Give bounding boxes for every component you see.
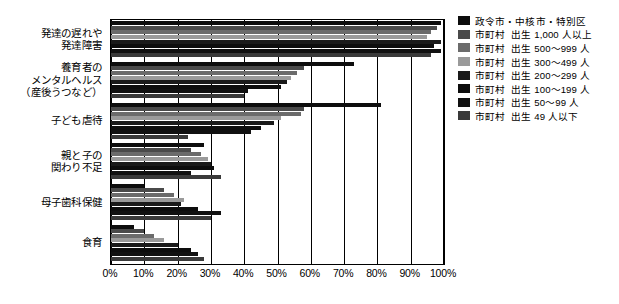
legend-label: 市町村出生 50〜99 人 (475, 95, 579, 109)
legend-label-secondary: 出生 49 人以下 (511, 109, 578, 123)
bar (111, 234, 154, 238)
bar (111, 89, 248, 93)
bar (111, 184, 144, 188)
legend-label-primary: 市町村 (475, 82, 505, 96)
bar (111, 107, 304, 111)
bar (111, 94, 244, 98)
legend-label: 市町村出生 500〜999 人 (475, 41, 590, 55)
bar-group (111, 183, 444, 224)
legend-item: 市町村出生 49 人以下 (458, 109, 616, 123)
legend-item: 市町村出生 500〜999 人 (458, 41, 616, 55)
bar (111, 80, 287, 84)
bar (111, 225, 134, 229)
legend-item: 市町村出生 300〜499 人 (458, 55, 616, 69)
category-label: 子ども虐待 (0, 114, 102, 127)
legend-swatch (458, 16, 470, 25)
bar (111, 252, 198, 256)
legend-label-secondary: 出生 50〜99 人 (511, 95, 579, 109)
bar (111, 193, 174, 197)
bar-group (111, 101, 444, 142)
bar (111, 211, 221, 215)
bar (111, 171, 191, 175)
legend-item: 市町村出生 1,000 人以上 (458, 28, 616, 42)
bar (111, 116, 281, 120)
x-tick-label: 100% (423, 267, 463, 279)
legend-label-secondary: 出生 300〜499 人 (511, 55, 590, 69)
category-label: 親と子の 関わり不足 (0, 149, 102, 174)
legend-label-secondary: 出生 1,000 人以上 (511, 27, 592, 41)
legend-label-primary: 市町村 (475, 27, 505, 41)
bar (111, 188, 164, 192)
bar (111, 202, 181, 206)
bar (111, 103, 381, 107)
bar (111, 257, 204, 261)
bar (111, 216, 211, 220)
legend-label-primary: 市町村 (475, 109, 505, 123)
category-axis-labels: 発達の遅れや 発達障害養育者の メンタルヘルス （産後うつなど）子ども虐待親と子… (0, 19, 106, 265)
bar (111, 53, 431, 57)
legend-swatch (458, 30, 470, 39)
legend-label-primary: 市町村 (475, 41, 505, 55)
bar-groups (111, 20, 444, 264)
plot-area (110, 19, 445, 265)
bar (111, 238, 164, 242)
legend-item: 政令市・中核市・特別区 (458, 14, 616, 28)
bar-chart: 発達の遅れや 発達障害養育者の メンタルヘルス （産後うつなど）子ども虐待親と子… (0, 0, 619, 304)
legend-label-secondary: 出生 200〜299 人 (511, 68, 590, 82)
bar (111, 152, 201, 156)
bar (111, 71, 297, 75)
bar-group (111, 61, 444, 102)
bar (111, 85, 281, 89)
bar (111, 143, 204, 147)
bar (111, 207, 198, 211)
bar (111, 62, 354, 66)
legend-label: 政令市・中核市・特別区 (475, 14, 586, 28)
legend-swatch (458, 98, 470, 107)
bar (111, 40, 441, 44)
legend-swatch (458, 84, 470, 93)
bar (111, 76, 291, 80)
bar (111, 26, 437, 30)
bar (111, 135, 188, 139)
legend-label: 市町村出生 1,000 人以上 (475, 27, 592, 41)
bar (111, 243, 178, 247)
bar (111, 130, 251, 134)
bar (111, 198, 184, 202)
legend-label-secondary: 出生 500〜999 人 (511, 41, 590, 55)
bar (111, 66, 304, 70)
bar (111, 229, 144, 233)
legend-label-primary: 政令市・中核市・特別区 (475, 14, 586, 28)
legend-label-primary: 市町村 (475, 68, 505, 82)
legend-label: 市町村出生 49 人以下 (475, 109, 578, 123)
bar (111, 30, 431, 34)
bar (111, 162, 211, 166)
bar (111, 44, 434, 48)
legend-label: 市町村出生 300〜499 人 (475, 55, 590, 69)
chart-legend: 政令市・中核市・特別区市町村出生 1,000 人以上市町村出生 500〜999 … (458, 14, 616, 123)
bar (111, 175, 221, 179)
legend-label-primary: 市町村 (475, 95, 505, 109)
category-label: 母子歯科保健 (0, 196, 102, 209)
legend-item: 市町村出生 100〜199 人 (458, 82, 616, 96)
bar (111, 112, 301, 116)
legend-item: 市町村出生 50〜99 人 (458, 96, 616, 110)
category-label: 発達の遅れや 発達障害 (0, 27, 102, 52)
x-axis-tick-labels: 0%10%20%30%40%50%60%70%80%90%100% (0, 267, 619, 283)
legend-swatch (458, 111, 470, 120)
bar (111, 121, 274, 125)
bar (111, 166, 214, 170)
legend-label-primary: 市町村 (475, 55, 505, 69)
legend-swatch (458, 43, 470, 52)
legend-label-secondary: 出生 100〜199 人 (511, 82, 590, 96)
legend-label: 市町村出生 100〜199 人 (475, 82, 590, 96)
legend-swatch (458, 71, 470, 80)
category-label: 養育者の メンタルヘルス （産後うつなど） (0, 61, 102, 99)
bar-group (111, 223, 444, 264)
legend-label: 市町村出生 200〜299 人 (475, 68, 590, 82)
bar (111, 35, 427, 39)
bar-group (111, 20, 444, 61)
bar-group (111, 142, 444, 183)
legend-item: 市町村出生 200〜299 人 (458, 68, 616, 82)
bar (111, 157, 208, 161)
bar (111, 148, 191, 152)
